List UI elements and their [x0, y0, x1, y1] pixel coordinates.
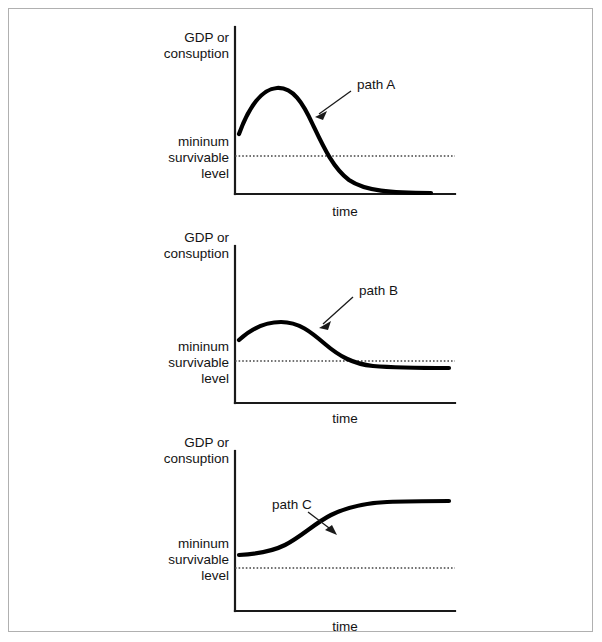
- chart-c-min-level-label-line2: survivable: [168, 552, 229, 567]
- chart-path-c: GDP or consuption mininum survivable lev…: [9, 425, 594, 633]
- chart-c-x-axis-label: time: [332, 619, 358, 633]
- chart-b-min-level-label-line1: mininum: [178, 339, 229, 354]
- chart-c-curve: [239, 501, 449, 555]
- chart-b-series-label: path B: [359, 283, 398, 298]
- chart-b-pointer-line: [323, 297, 353, 324]
- chart-c-min-level-label-line1: mininum: [178, 536, 229, 551]
- chart-c-min-level-label-line3: level: [201, 568, 229, 583]
- chart-a-y-axis-label-line1: GDP or: [184, 30, 229, 45]
- chart-b-svg: GDP or consuption mininum survivable lev…: [9, 220, 594, 425]
- chart-a-min-level-label-line3: level: [201, 166, 229, 181]
- chart-c-y-axis-label-line2: consuption: [164, 451, 229, 466]
- chart-a-x-axis-label: time: [332, 204, 358, 219]
- chart-a-series-label: path A: [357, 77, 395, 92]
- chart-b-x-axis-label: time: [332, 411, 358, 425]
- chart-c-y-axis-label-line1: GDP or: [184, 435, 229, 450]
- chart-b-y-axis-label-line1: GDP or: [184, 230, 229, 245]
- chart-a-y-axis-label-line2: consuption: [164, 46, 229, 61]
- chart-c-svg: GDP or consuption mininum survivable lev…: [9, 425, 594, 633]
- chart-a-svg: GDP or consuption mininum survivable lev…: [9, 15, 594, 220]
- chart-b-min-level-label-line2: survivable: [168, 355, 229, 370]
- chart-a-curve: [239, 88, 431, 193]
- chart-a-min-level-label-line2: survivable: [168, 150, 229, 165]
- figure-frame: GDP or consuption mininum survivable lev…: [8, 8, 593, 632]
- chart-c-series-label: path C: [272, 497, 312, 512]
- chart-a-min-level-label-line1: mininum: [178, 134, 229, 149]
- chart-b-y-axis-label-line2: consuption: [164, 246, 229, 261]
- chart-path-b: GDP or consuption mininum survivable lev…: [9, 220, 594, 425]
- chart-b-min-level-label-line3: level: [201, 371, 229, 386]
- chart-path-a: GDP or consuption mininum survivable lev…: [9, 15, 594, 220]
- chart-a-pointer-line: [319, 91, 351, 114]
